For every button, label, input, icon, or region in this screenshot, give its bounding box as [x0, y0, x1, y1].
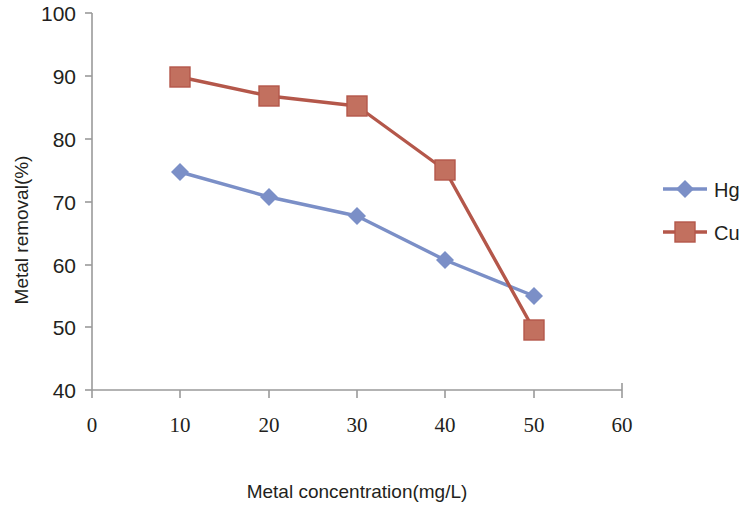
x-tick-label-20: 20 [259, 413, 280, 437]
series-hg-point-20 [260, 188, 278, 206]
y-tick-label-40: 40 [53, 379, 76, 402]
legend-item-label-cu: Cu [714, 222, 740, 244]
y-axis-ticks [85, 13, 92, 390]
series-hg [171, 163, 543, 305]
series-cu [170, 67, 544, 340]
y-tick-label-70: 70 [53, 191, 76, 214]
series-hg-point-30 [348, 207, 366, 225]
chart-legend: Hg Cu [663, 179, 740, 244]
legend-hg-diamond-icon [676, 180, 694, 198]
y-tick-label-60: 60 [53, 254, 76, 277]
series-cu-point-50 [524, 320, 544, 340]
y-axis-title: Metal removal(%) [11, 156, 32, 305]
legend-item-hg[interactable]: Hg [663, 179, 740, 201]
chart-container: 100 90 80 70 60 50 40 0 10 20 30 40 50 6… [0, 0, 741, 514]
series-cu-point-40 [435, 160, 455, 180]
y-tick-label-80: 80 [53, 128, 76, 151]
y-axis-tick-labels: 100 90 80 70 60 50 40 [41, 2, 76, 402]
x-axis-ticks [92, 390, 622, 398]
x-tick-label-40: 40 [435, 413, 456, 437]
series-cu-point-20 [259, 86, 279, 106]
series-cu-point-10 [170, 67, 190, 87]
x-tick-label-10: 10 [170, 413, 191, 437]
series-cu-point-30 [347, 96, 367, 116]
x-tick-label-30: 30 [347, 413, 368, 437]
legend-cu-square-icon [675, 222, 695, 242]
line-chart: 100 90 80 70 60 50 40 0 10 20 30 40 50 6… [0, 0, 741, 514]
series-hg-point-40 [436, 251, 454, 269]
legend-item-cu[interactable]: Cu [663, 222, 740, 244]
x-tick-label-60: 60 [612, 413, 633, 437]
x-tick-label-50: 50 [524, 413, 545, 437]
x-tick-label-0: 0 [87, 413, 98, 437]
y-tick-label-100: 100 [41, 2, 76, 25]
series-hg-point-50 [525, 287, 543, 305]
legend-item-label-hg: Hg [714, 179, 740, 201]
y-tick-label-50: 50 [53, 316, 76, 339]
x-axis-tick-labels: 0 10 20 30 40 50 60 [87, 413, 633, 437]
series-hg-point-10 [171, 163, 189, 181]
y-tick-label-90: 90 [53, 65, 76, 88]
x-axis-title: Metal concentration(mg/L) [247, 481, 468, 502]
